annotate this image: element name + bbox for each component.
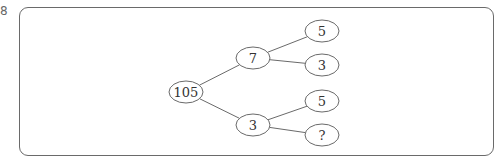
edge-root-to-l1-1 xyxy=(200,99,240,119)
unknown-node: ? xyxy=(305,124,339,146)
edge-l1-to-l2-2 xyxy=(268,106,307,120)
edge-root-to-l1-0 xyxy=(199,65,239,85)
node-label: 3 xyxy=(249,118,257,133)
edge-l1-to-l2-1 xyxy=(270,60,305,64)
edge-l1-to-l2-0 xyxy=(268,37,308,53)
level2-node-1: 3 xyxy=(305,54,339,76)
node-label: 5 xyxy=(318,94,326,109)
node-label: 7 xyxy=(249,51,257,66)
factor-tree-diagram: 10573535? xyxy=(0,0,499,159)
level1-node-0: 7 xyxy=(236,47,270,69)
node-label: 105 xyxy=(174,85,199,100)
edge-l1-to-l2-3 xyxy=(270,127,306,132)
level2-node-2: 5 xyxy=(305,90,339,112)
node-label: ? xyxy=(319,128,326,143)
node-label: 3 xyxy=(318,58,326,73)
level2-node-0: 5 xyxy=(305,20,339,42)
level1-node-1: 3 xyxy=(236,114,270,136)
node-label: 5 xyxy=(318,24,326,39)
root-node-105: 105 xyxy=(169,81,203,103)
tree-nodes: 10573535? xyxy=(169,20,339,146)
